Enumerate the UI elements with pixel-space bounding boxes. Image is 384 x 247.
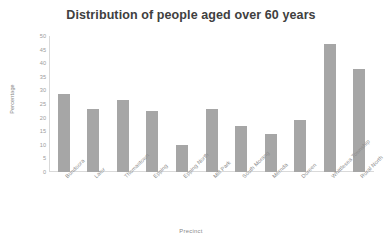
- x-label-slot: South Morang: [226, 173, 256, 219]
- y-axis-tick-label: 30: [24, 87, 46, 93]
- y-axis-tick-label: 5: [24, 155, 46, 161]
- x-label-slot: Rural North: [344, 173, 374, 219]
- bar[interactable]: [235, 126, 247, 172]
- y-axis-title: Percentage: [9, 69, 15, 129]
- bar[interactable]: [146, 111, 158, 172]
- x-axis-title: Precinct: [0, 228, 382, 234]
- x-label-slot: Mill Park: [197, 173, 227, 219]
- bar-slot: [108, 36, 138, 172]
- bar-slot: [49, 36, 79, 172]
- plot-area: [49, 36, 374, 172]
- x-label-slot: Epping: [138, 173, 168, 219]
- y-axis-tick-label: 15: [24, 128, 46, 134]
- bar-slot: [256, 36, 286, 172]
- bar-slot: [79, 36, 109, 172]
- bar-slot: [138, 36, 168, 172]
- bar-series: [49, 36, 374, 172]
- bar[interactable]: [58, 94, 70, 172]
- bar[interactable]: [206, 109, 218, 172]
- x-label-slot: Doreen: [285, 173, 315, 219]
- bar-slot: [315, 36, 345, 172]
- y-axis-tick-label: 10: [24, 142, 46, 148]
- bar-slot: [285, 36, 315, 172]
- y-axis-tick-label: 20: [24, 115, 46, 121]
- x-label-slot: Mernda: [256, 173, 286, 219]
- bar[interactable]: [87, 109, 99, 172]
- x-label-slot: Bundoora: [49, 173, 79, 219]
- bar[interactable]: [176, 145, 188, 172]
- chart-title: Distribution of people aged over 60 year…: [0, 8, 382, 22]
- x-label-slot: Whittlesea Township: [315, 173, 345, 219]
- y-axis-tick-label: 45: [24, 47, 46, 53]
- y-axis-tick-label: 25: [24, 101, 46, 107]
- x-label-slot: Epping North: [167, 173, 197, 219]
- bar-slot: [167, 36, 197, 172]
- x-label-slot: Lalor: [79, 173, 109, 219]
- x-label-slot: Thomastown: [108, 173, 138, 219]
- y-axis-tick-label: 0: [24, 169, 46, 175]
- bar-slot: [197, 36, 227, 172]
- bar[interactable]: [117, 100, 129, 172]
- y-axis-tick-label: 35: [24, 74, 46, 80]
- bar[interactable]: [294, 120, 306, 172]
- x-axis-tick-labels: BundooraLalorThomastownEppingEpping Nort…: [49, 173, 374, 219]
- bar-slot: [226, 36, 256, 172]
- y-axis-tick-label: 40: [24, 60, 46, 66]
- y-axis-tick-labels: 50454035302520151050: [24, 30, 46, 172]
- bar[interactable]: [324, 44, 336, 172]
- y-axis-tick-label: 50: [24, 33, 46, 39]
